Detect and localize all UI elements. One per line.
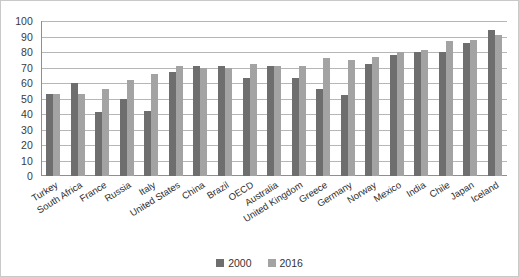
bar-mexico-2000[interactable] [390, 55, 397, 176]
y-tick-20: 20 [21, 139, 33, 151]
x-label-cell: Iceland [483, 177, 508, 249]
bar-group [66, 21, 91, 176]
y-tick-100: 100 [15, 15, 33, 27]
bar-united-kingdom-2016[interactable] [299, 66, 306, 176]
bar-italy-2016[interactable] [151, 74, 158, 176]
legend-swatch-2016 [268, 259, 276, 267]
plot-area [41, 21, 507, 176]
bar-chart: 1009080706050403020100 TurkeySouth Afric… [0, 0, 519, 277]
bar-russia-2000[interactable] [120, 99, 127, 177]
bar-group [262, 21, 287, 176]
bar-groups [41, 21, 507, 176]
bar-group [41, 21, 66, 176]
bar-norway-2016[interactable] [372, 57, 379, 176]
chart-legend: 20002016 [1, 257, 518, 269]
bar-south-africa-2000[interactable] [71, 83, 78, 176]
legend-item-2016[interactable]: 2016 [268, 257, 303, 269]
y-tick-10: 10 [21, 155, 33, 167]
bar-group [164, 21, 189, 176]
bar-japan-2016[interactable] [470, 40, 477, 176]
bar-united-states-2016[interactable] [176, 66, 183, 176]
bar-group [483, 21, 508, 176]
bar-united-kingdom-2000[interactable] [292, 78, 299, 176]
bar-group [458, 21, 483, 176]
bar-germany-2000[interactable] [341, 95, 348, 176]
y-tick-60: 60 [21, 77, 33, 89]
y-tick-30: 30 [21, 124, 33, 136]
bar-group [286, 21, 311, 176]
x-axis-category-labels: TurkeySouth AfricaFranceRussiaItalyUnite… [41, 177, 507, 249]
legend-item-2000[interactable]: 2000 [216, 257, 251, 269]
y-tick-40: 40 [21, 108, 33, 120]
legend-label-2016: 2016 [280, 257, 303, 269]
y-tick-50: 50 [21, 93, 33, 105]
y-tick-0: 0 [27, 170, 33, 182]
bar-iceland-2000[interactable] [488, 30, 495, 176]
bar-india-2000[interactable] [414, 52, 421, 176]
bar-oecd-2000[interactable] [243, 78, 250, 176]
bar-group [213, 21, 238, 176]
bar-chile-2000[interactable] [439, 52, 446, 176]
bar-norway-2000[interactable] [365, 64, 372, 176]
bar-group [115, 21, 140, 176]
bar-group [384, 21, 409, 176]
y-tick-70: 70 [21, 62, 33, 74]
bar-group [409, 21, 434, 176]
bar-france-2000[interactable] [95, 112, 102, 176]
bar-group [360, 21, 385, 176]
bar-france-2016[interactable] [102, 89, 109, 176]
y-tick-90: 90 [21, 31, 33, 43]
y-tick-80: 80 [21, 46, 33, 58]
bar-russia-2016[interactable] [127, 80, 134, 176]
bar-china-2016[interactable] [200, 68, 207, 177]
bar-australia-2000[interactable] [267, 66, 274, 176]
bar-mexico-2016[interactable] [397, 52, 404, 176]
bar-australia-2016[interactable] [274, 66, 281, 176]
bar-group [335, 21, 360, 176]
bar-chile-2016[interactable] [446, 41, 453, 176]
bar-germany-2016[interactable] [348, 60, 355, 176]
bar-italy-2000[interactable] [144, 111, 151, 176]
bar-group [237, 21, 262, 176]
bar-group [139, 21, 164, 176]
legend-label-2000: 2000 [228, 257, 251, 269]
bar-group [90, 21, 115, 176]
bar-japan-2000[interactable] [463, 43, 470, 176]
bar-group [434, 21, 459, 176]
bar-oecd-2016[interactable] [250, 64, 257, 176]
bar-greece-2000[interactable] [316, 89, 323, 176]
bar-india-2016[interactable] [421, 50, 428, 176]
bar-group [188, 21, 213, 176]
y-axis-tick-labels: 1009080706050403020100 [1, 21, 37, 176]
bar-brazil-2000[interactable] [218, 66, 225, 176]
bar-turkey-2016[interactable] [53, 94, 60, 176]
bar-south-africa-2016[interactable] [78, 94, 85, 176]
bar-greece-2016[interactable] [323, 58, 330, 176]
bar-china-2000[interactable] [193, 66, 200, 176]
bar-iceland-2016[interactable] [495, 35, 502, 176]
legend-swatch-2000 [216, 259, 224, 267]
bar-brazil-2016[interactable] [225, 68, 232, 177]
bar-united-states-2000[interactable] [169, 72, 176, 176]
bar-turkey-2000[interactable] [46, 94, 53, 176]
bar-group [311, 21, 336, 176]
